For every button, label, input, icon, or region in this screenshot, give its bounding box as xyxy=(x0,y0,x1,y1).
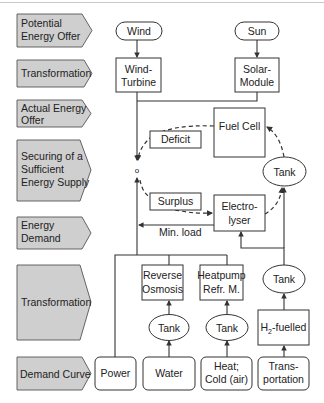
box-label: Module xyxy=(240,76,275,88)
stage-label: Offer xyxy=(21,114,45,126)
box-label: H2-fuelled xyxy=(261,321,307,335)
box-label: Osmosis xyxy=(142,283,183,295)
box-label: Water xyxy=(155,367,183,379)
box-fuel-cell: Fuel Cell xyxy=(214,108,265,157)
box-wind-turbine: Wind- Turbine xyxy=(116,58,161,92)
oval-tank-transport: Tank xyxy=(263,265,305,293)
box-h2-fuelled: H2-fuelled xyxy=(258,310,309,345)
stage-tag-energy-demand: Energy Demand xyxy=(17,217,91,249)
stage-tag-potential-energy-offer: Potential Energy Offer xyxy=(17,14,92,47)
oval-label: Tank xyxy=(216,322,239,334)
box-label: Surplus xyxy=(158,195,194,207)
stage-label: Transformation xyxy=(21,67,91,79)
box-label: Deficit xyxy=(161,133,190,145)
box-label: Turbine xyxy=(121,76,156,88)
source-wind: Wind xyxy=(116,22,162,40)
stage-label: Transformation xyxy=(21,296,91,308)
box-label: Fuel Cell xyxy=(219,120,260,132)
stage-tag-demand-curve: Demand Curve xyxy=(17,357,91,390)
stage-label: Energy xyxy=(21,219,55,231)
box-label: Heatpump xyxy=(197,269,246,281)
stage-label: Securing of a xyxy=(21,150,83,162)
box-label: Electro- xyxy=(221,200,258,212)
stage-label: Demand Curve xyxy=(20,368,91,380)
source-wind-label: Wind xyxy=(127,25,151,37)
stage-label: Energy Offer xyxy=(21,30,81,42)
box-heatpump: Heatpump Refr. M. xyxy=(197,265,246,300)
stage-tag-securing-supply: Securing of a Sufficient Energy Supply xyxy=(17,140,91,201)
oval-label: Tank xyxy=(273,166,296,178)
box-reverse-osmosis: Reverse Osmosis xyxy=(142,265,183,300)
energy-system-diagram: Potential Energy Offer Transformation Ac… xyxy=(0,0,324,403)
stage-label: Sufficient xyxy=(21,163,64,175)
min-load-label: Min. load xyxy=(159,226,202,238)
box-label: Wind- xyxy=(125,63,153,75)
stage-label: Potential xyxy=(21,17,62,29)
oval-label: Tank xyxy=(158,322,181,334)
source-sun-label: Sun xyxy=(248,25,267,37)
stage-label: Demand xyxy=(21,232,61,244)
oval-tank-water: Tank xyxy=(149,315,189,341)
source-sun: Sun xyxy=(235,22,279,40)
node-symbol: o xyxy=(135,166,140,175)
box-label: Heat; xyxy=(214,360,239,372)
box-label: lyser xyxy=(228,214,251,226)
box-label: Power xyxy=(101,367,131,379)
stage-tag-transformation-demand: Transformation xyxy=(17,265,91,340)
box-label: portation xyxy=(263,373,304,385)
oval-tank-heat: Tank xyxy=(206,315,248,341)
oval-tank-h2: Tank xyxy=(263,157,306,186)
box-heat-cold: Heat; Cold (air) xyxy=(201,357,252,390)
box-transportation: Trans- portation xyxy=(258,357,309,390)
box-label: Reverse xyxy=(143,269,182,281)
stage-tag-actual-energy-offer: Actual Energy Offer xyxy=(17,100,91,127)
oval-label: Tank xyxy=(273,273,296,285)
stage-label: Actual Energy xyxy=(21,102,87,114)
node-balance: o xyxy=(135,166,140,175)
box-solar-module: Solar- Module xyxy=(235,58,279,92)
box-label: Solar- xyxy=(243,63,272,75)
box-water: Water xyxy=(143,357,195,390)
box-label: Trans- xyxy=(269,360,299,372)
stage-label: Energy Supply xyxy=(21,176,90,188)
box-deficit: Deficit xyxy=(150,131,201,148)
box-label: Cold (air) xyxy=(205,373,248,385)
box-surplus: Surplus xyxy=(150,193,201,210)
box-label: Refr. M. xyxy=(203,283,240,295)
stage-tag-transformation-supply: Transformation xyxy=(17,60,92,87)
box-electrolyser: Electro- lyser xyxy=(214,195,265,231)
box-power: Power xyxy=(95,357,136,390)
